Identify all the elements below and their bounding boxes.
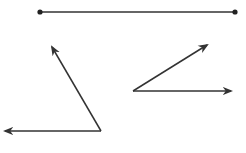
acute-right-angle: [133, 45, 231, 91]
segment-endpoint-left: [37, 9, 42, 14]
segment-endpoint-right: [232, 9, 237, 14]
ray-arrow: [52, 47, 101, 131]
geometry-diagram: [0, 0, 246, 153]
line-segment: [37, 9, 237, 14]
ray-arrow: [133, 45, 207, 91]
obtuse-left-angle: [5, 47, 101, 131]
